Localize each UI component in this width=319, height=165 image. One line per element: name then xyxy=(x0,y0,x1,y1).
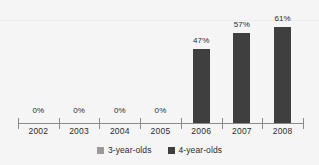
legend-item-4-year-olds[interactable]: 4-year-olds xyxy=(168,145,223,155)
legend-swatch-icon xyxy=(97,147,104,154)
legend-swatch-icon xyxy=(168,147,175,154)
category-column-2004: 0% xyxy=(99,20,140,123)
bar-slot xyxy=(59,20,100,123)
x-tick-label-2007: 2007 xyxy=(222,126,263,136)
x-tick-label-2005: 2005 xyxy=(140,126,181,136)
bar-2008-4yo xyxy=(274,27,291,123)
legend-label: 3-year-olds xyxy=(108,145,152,155)
x-tick-label-2002: 2002 xyxy=(18,126,59,136)
x-tick-label-2006: 2006 xyxy=(181,126,222,136)
category-column-2007: 57% xyxy=(222,20,263,123)
bar-slot xyxy=(181,20,222,123)
category-column-2005: 0% xyxy=(140,20,181,123)
bar-slot xyxy=(99,20,140,123)
x-tick-label-2004: 2004 xyxy=(99,126,140,136)
bar-slot xyxy=(140,20,181,123)
legend-item-3-year-olds[interactable]: 3-year-olds xyxy=(97,145,152,155)
axis-tick xyxy=(303,118,304,129)
x-tick-label-2003: 2003 xyxy=(59,126,100,136)
bar-slot xyxy=(222,20,263,123)
x-axis-line xyxy=(18,123,303,124)
category-column-2003: 0% xyxy=(59,20,100,123)
bar-2007-4yo xyxy=(233,33,250,123)
plot-area: 0% 0% 0% 0% 47% xyxy=(18,20,303,123)
bar-chart: 0% 0% 0% 0% 47% xyxy=(0,0,319,165)
bar-2006-4yo xyxy=(193,49,210,123)
category-column-2002: 0% xyxy=(18,20,59,123)
legend-label: 4-year-olds xyxy=(179,145,223,155)
category-column-2008: 61% xyxy=(262,20,303,123)
category-column-2006: 47% xyxy=(181,20,222,123)
chart-legend: 3-year-olds 4-year-olds xyxy=(0,145,319,155)
bar-slot xyxy=(18,20,59,123)
x-tick-label-2008: 2008 xyxy=(262,126,303,136)
x-axis-labels: 2002 2003 2004 2005 2006 2007 2008 xyxy=(18,126,303,140)
bar-slot xyxy=(262,20,303,123)
